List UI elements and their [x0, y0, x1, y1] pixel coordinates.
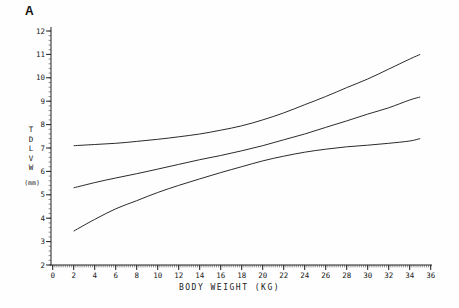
x-tick-label: 22: [275, 271, 293, 280]
plot-area: [0, 0, 459, 308]
upper-confidence-band-line: [74, 54, 421, 145]
x-tick-label: 16: [212, 271, 230, 280]
x-tick-label: 6: [107, 271, 125, 280]
x-tick-label: 34: [401, 271, 419, 280]
y-tick-label: 8: [27, 120, 45, 129]
x-tick-label: 14: [191, 271, 209, 280]
x-tick-label: 0: [44, 271, 62, 280]
y-tick-label: 9: [27, 97, 45, 106]
x-tick-label: 24: [296, 271, 314, 280]
x-tick-label: 32: [380, 271, 398, 280]
x-tick-label: 20: [254, 271, 272, 280]
y-tick-label: 11: [27, 50, 45, 59]
x-tick-label: 2: [65, 271, 83, 280]
x-tick-label: 36: [422, 271, 440, 280]
x-tick-label: 30: [359, 271, 377, 280]
y-tick-label: 12: [27, 27, 45, 36]
x-tick-label: 8: [128, 271, 146, 280]
x-tick-label: 18: [233, 271, 251, 280]
y-tick-label: 4: [27, 214, 45, 223]
y-axis-major-ticks: [46, 31, 51, 265]
y-tick-label: 3: [27, 237, 45, 246]
x-tick-label: 10: [149, 271, 167, 280]
x-tick-label: 28: [338, 271, 356, 280]
x-tick-label: 4: [86, 271, 104, 280]
lower-confidence-band-line: [74, 139, 421, 232]
x-tick-label: 26: [317, 271, 335, 280]
y-tick-label: 7: [27, 144, 45, 153]
y-tick-label: 10: [27, 73, 45, 82]
y-tick-label: 2: [27, 261, 45, 270]
y-tick-label: 6: [27, 167, 45, 176]
y-tick-label: 5: [27, 190, 45, 199]
x-tick-label: 12: [170, 271, 188, 280]
figure-panel: A T D L V W (mm) BODY WEIGHT (KG) 234567…: [0, 0, 459, 308]
